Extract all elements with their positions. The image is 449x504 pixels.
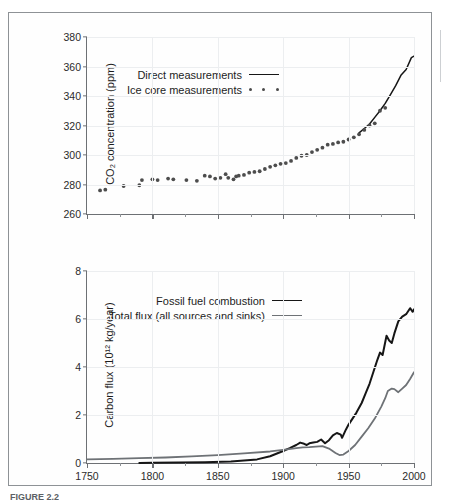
gridline-vertical xyxy=(152,37,153,214)
data-point-ice-core xyxy=(352,135,356,139)
margin-tick-mark xyxy=(440,30,441,82)
data-point-ice-core xyxy=(213,177,217,181)
data-point-ice-core xyxy=(341,140,345,144)
data-point-ice-core xyxy=(284,161,288,165)
gridline-horizontal xyxy=(87,271,414,272)
data-point-ice-core xyxy=(294,156,298,160)
data-point-ice-core xyxy=(224,172,228,176)
panel-carbon-flux: Carbon flux (10¹² kg/year) Fossil fuel c… xyxy=(9,251,433,485)
gridline-horizontal xyxy=(87,415,414,416)
gridline-vertical xyxy=(218,37,219,214)
x-tick-label: 1900 xyxy=(272,470,295,482)
x-tick-mark-minor xyxy=(185,463,186,466)
y-tick-mark xyxy=(83,66,87,67)
y-tick-mark xyxy=(83,184,87,185)
x-tick-mark xyxy=(152,463,153,468)
y-tick-label: 4 xyxy=(75,361,81,373)
gridline-vertical xyxy=(414,37,415,214)
y-tick-label: 300 xyxy=(63,149,81,161)
data-point-ice-core xyxy=(357,132,361,136)
data-point-ice-core xyxy=(321,146,325,150)
gridline-vertical xyxy=(349,271,350,463)
data-point-ice-core xyxy=(253,170,257,174)
gridline-vertical xyxy=(283,37,284,214)
y-tick-mark xyxy=(83,414,87,415)
series-line xyxy=(139,308,414,463)
x-tick-mark xyxy=(414,463,415,468)
data-point-ice-core xyxy=(289,159,293,163)
y-tick-label: 260 xyxy=(63,208,81,220)
y-tick-mark xyxy=(83,125,87,126)
y-tick-mark xyxy=(83,95,87,96)
x-tick-mark xyxy=(152,214,153,219)
series-line xyxy=(359,56,414,133)
gridline-vertical xyxy=(349,37,350,214)
y-tick-label: 380 xyxy=(63,31,81,43)
gridline-horizontal xyxy=(87,319,414,320)
data-point-ice-core xyxy=(219,176,223,180)
x-tick-mark-minor xyxy=(316,463,317,466)
data-point-ice-core xyxy=(203,174,207,178)
figure-caption: FIGURE 2.2 xyxy=(10,492,59,504)
x-tick-mark xyxy=(349,214,350,219)
plot-area-flux: Carbon flux (10¹² kg/year) Fossil fuel c… xyxy=(86,271,414,464)
x-tick-mark xyxy=(283,463,284,468)
x-tick-mark-minor xyxy=(316,214,317,217)
data-point-ice-core xyxy=(273,163,277,167)
data-point-ice-core xyxy=(156,178,160,182)
y-tick-label: 8 xyxy=(75,265,81,277)
x-tick-mark-minor xyxy=(251,463,252,466)
x-tick-mark-minor xyxy=(185,214,186,217)
x-tick-mark-minor xyxy=(381,463,382,466)
y-tick-mark xyxy=(83,154,87,155)
x-tick-mark xyxy=(218,214,219,219)
gridline-horizontal xyxy=(87,185,414,186)
data-point-ice-core xyxy=(98,189,102,193)
y-tick-label: 280 xyxy=(63,179,81,191)
gridline-horizontal xyxy=(87,96,414,97)
x-tick-label: 1850 xyxy=(206,470,229,482)
data-point-ice-core xyxy=(208,174,212,178)
panel-co2-concentration: CO₂ concentration (ppm) Direct measureme… xyxy=(9,17,433,249)
y-tick-mark xyxy=(83,366,87,367)
x-tick-mark-minor xyxy=(381,214,382,217)
data-point-ice-core xyxy=(226,176,230,180)
y-tick-label: 2 xyxy=(75,409,81,421)
data-point-ice-core xyxy=(263,167,267,171)
y-tick-label: 320 xyxy=(63,120,81,132)
y-tick-label: 6 xyxy=(75,313,81,325)
data-point-ice-core xyxy=(383,106,387,110)
data-point-ice-core xyxy=(258,169,262,173)
data-point-ice-core xyxy=(232,177,236,181)
gridline-vertical xyxy=(218,271,219,463)
x-tick-label: 1750 xyxy=(75,470,98,482)
x-tick-label: 1800 xyxy=(141,470,164,482)
gridline-vertical xyxy=(414,271,415,463)
gridline-horizontal xyxy=(87,155,414,156)
data-point-ice-core xyxy=(315,148,319,152)
gridline-horizontal xyxy=(87,367,414,368)
data-point-ice-core xyxy=(279,162,283,166)
x-tick-mark xyxy=(218,463,219,468)
data-point-ice-core xyxy=(242,173,246,177)
data-point-ice-core xyxy=(103,188,107,192)
data-point-ice-core xyxy=(362,128,366,132)
y-tick-mark xyxy=(83,36,87,37)
data-point-ice-core xyxy=(171,177,175,181)
y-tick-label: 0 xyxy=(75,457,81,469)
data-point-ice-core xyxy=(237,174,241,178)
gridline-horizontal xyxy=(87,37,414,38)
x-tick-label: 1950 xyxy=(337,470,360,482)
x-tick-mark xyxy=(414,214,415,219)
x-tick-mark xyxy=(349,463,350,468)
data-point-ice-core xyxy=(166,177,170,181)
data-point-ice-core xyxy=(326,143,330,147)
x-tick-mark-minor xyxy=(120,463,121,466)
y-tick-label: 360 xyxy=(63,61,81,73)
data-point-ice-core xyxy=(268,165,272,169)
x-tick-label: 2000 xyxy=(402,470,425,482)
data-point-ice-core xyxy=(310,150,314,154)
data-point-ice-core xyxy=(195,179,199,183)
data-point-ice-core xyxy=(378,109,382,113)
gridline-vertical xyxy=(283,271,284,463)
